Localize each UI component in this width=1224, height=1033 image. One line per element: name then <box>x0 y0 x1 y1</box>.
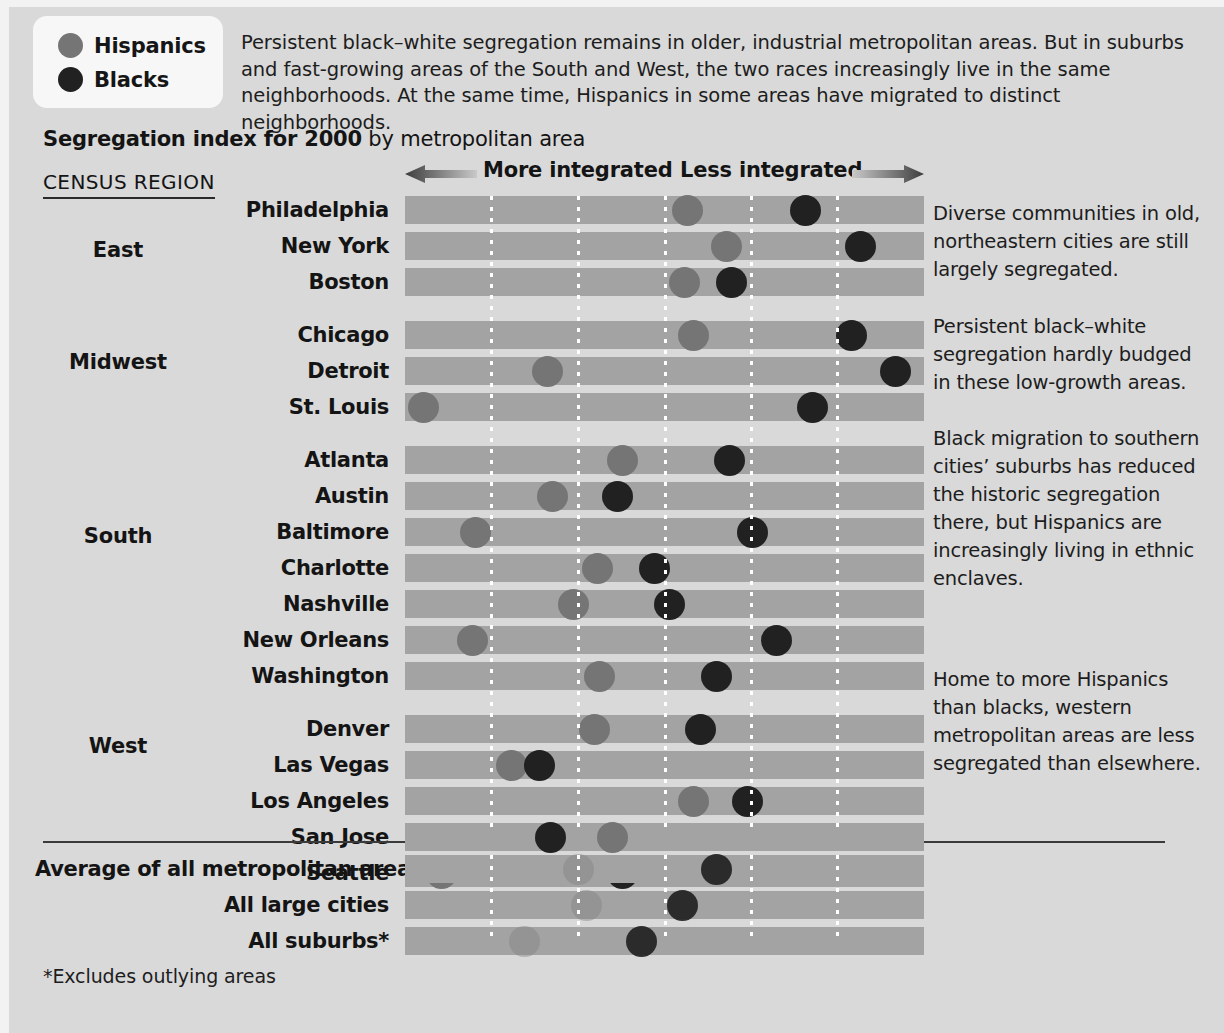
data-point-blacks[interactable] <box>790 195 821 226</box>
circle-icon <box>58 33 83 58</box>
axis-direction-bar: More integrated Less integrated <box>405 158 924 190</box>
data-point-hispanics[interactable] <box>678 320 709 351</box>
chart-subtitle-rest: by metropolitan area <box>362 127 585 151</box>
data-point-blacks[interactable] <box>654 589 685 620</box>
data-point-hispanics[interactable] <box>496 750 527 781</box>
chart-row <box>405 823 924 851</box>
category-label-san-jose: San Jose <box>129 825 389 849</box>
data-point-hispanics[interactable] <box>460 517 491 548</box>
category-label-new-orleans: New Orleans <box>129 628 389 652</box>
data-point-blacks[interactable] <box>639 553 670 584</box>
chart-row <box>405 518 924 546</box>
category-label-washington: Washington <box>129 664 389 688</box>
data-point-blacks[interactable] <box>626 926 657 957</box>
chart-subtitle-strong: Segregation index for 2000 <box>43 127 362 151</box>
category-label-austin: Austin <box>129 484 389 508</box>
data-point-hispanics[interactable] <box>509 926 540 957</box>
chart-row <box>405 554 924 582</box>
chart-row <box>405 268 924 296</box>
chart-row <box>405 357 924 385</box>
infographic-page: Hispanics Blacks Persistent black–white … <box>0 0 1224 1033</box>
annotation-west: Home to more Hispanics than blacks, west… <box>933 666 1201 778</box>
data-point-blacks[interactable] <box>524 750 555 781</box>
data-point-blacks[interactable] <box>845 231 876 262</box>
axis-label-more-integrated: More integrated <box>483 158 673 182</box>
data-point-hispanics[interactable] <box>558 589 589 620</box>
data-point-blacks[interactable] <box>880 356 911 387</box>
arrow-right-icon <box>852 165 924 183</box>
arrow-left-icon <box>405 165 477 183</box>
summary-labels: Average of all metropolitan areasAll lar… <box>35 855 389 937</box>
data-point-blacks[interactable] <box>701 854 732 885</box>
chart-row <box>405 232 924 260</box>
data-point-hispanics[interactable] <box>597 822 628 853</box>
chart-row <box>405 482 924 510</box>
chart-row <box>405 787 924 815</box>
legend-label-hispanics: Hispanics <box>94 34 206 58</box>
data-point-blacks[interactable] <box>836 320 867 351</box>
category-label-philadelphia: Philadelphia <box>129 198 389 222</box>
category-label-all-suburbs-: All suburbs* <box>35 929 389 953</box>
data-point-hispanics[interactable] <box>537 481 568 512</box>
chart-plot-area <box>405 196 924 834</box>
data-point-hispanics[interactable] <box>607 445 638 476</box>
data-point-blacks[interactable] <box>667 890 698 921</box>
summary-plot-area <box>405 855 924 937</box>
footnote: *Excludes outlying areas <box>43 965 276 987</box>
data-point-blacks[interactable] <box>602 481 633 512</box>
category-label-los-angeles: Los Angeles <box>129 789 389 813</box>
data-point-hispanics[interactable] <box>582 553 613 584</box>
data-point-hispanics[interactable] <box>579 714 610 745</box>
data-point-blacks[interactable] <box>761 625 792 656</box>
legend-item-hispanics: Hispanics <box>58 33 206 58</box>
category-label-st-louis: St. Louis <box>129 395 389 419</box>
chart-row <box>405 590 924 618</box>
chart-row <box>405 446 924 474</box>
category-label-chicago: Chicago <box>129 323 389 347</box>
category-label-denver: Denver <box>129 717 389 741</box>
chart-row <box>405 321 924 349</box>
annotation-east: Diverse communities in old, northeastern… <box>933 200 1201 284</box>
data-point-hispanics[interactable] <box>678 786 709 817</box>
data-point-blacks[interactable] <box>714 445 745 476</box>
data-point-hispanics[interactable] <box>571 890 602 921</box>
data-point-hispanics[interactable] <box>672 195 703 226</box>
data-point-hispanics[interactable] <box>563 854 594 885</box>
annotation-midwest: Persistent black–white segregation hardl… <box>933 313 1201 397</box>
category-label-average-of-all-metropolitan-areas: Average of all metropolitan areas <box>35 857 389 881</box>
category-label-baltimore: Baltimore <box>129 520 389 544</box>
chart-row <box>405 751 924 779</box>
chart-row <box>405 927 924 955</box>
chart-row <box>405 626 924 654</box>
category-label-detroit: Detroit <box>129 359 389 383</box>
category-label-all-large-cities: All large cities <box>35 893 389 917</box>
circle-icon <box>58 67 83 92</box>
chart-subtitle: Segregation index for 2000 by metropolit… <box>43 127 585 151</box>
data-point-blacks[interactable] <box>685 714 716 745</box>
chart-row <box>405 715 924 743</box>
annotation-south: Black migration to southern cities’ subu… <box>933 425 1201 593</box>
intro-paragraph: Persistent black–white segregation remai… <box>241 30 1201 136</box>
category-label-atlanta: Atlanta <box>129 448 389 472</box>
census-region-heading: CENSUS REGION <box>43 170 215 199</box>
data-point-blacks[interactable] <box>732 786 763 817</box>
data-point-blacks[interactable] <box>737 517 768 548</box>
legend-item-blacks: Blacks <box>58 67 169 92</box>
data-point-blacks[interactable] <box>716 267 747 298</box>
data-point-hispanics[interactable] <box>584 661 615 692</box>
category-label-las-vegas: Las Vegas <box>129 753 389 777</box>
data-point-hispanics[interactable] <box>669 267 700 298</box>
chart-row <box>405 662 924 690</box>
data-point-blacks[interactable] <box>797 392 828 423</box>
data-point-hispanics[interactable] <box>711 231 742 262</box>
category-label-nashville: Nashville <box>129 592 389 616</box>
chart-row <box>405 393 924 421</box>
data-point-blacks[interactable] <box>535 822 566 853</box>
data-point-hispanics[interactable] <box>457 625 488 656</box>
chart-row <box>405 891 924 919</box>
data-point-hispanics[interactable] <box>532 356 563 387</box>
data-point-hispanics[interactable] <box>408 392 439 423</box>
data-point-blacks[interactable] <box>701 661 732 692</box>
category-label-new-york: New York <box>129 234 389 258</box>
axis-label-less-integrated: Less integrated <box>680 158 862 182</box>
